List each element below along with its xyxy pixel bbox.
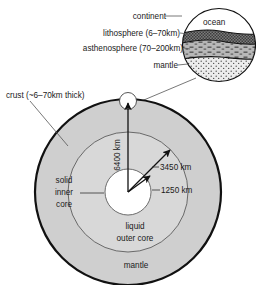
inner-core-line2: inner <box>55 188 73 197</box>
label-asthenosphere: asthenosphere (70–200km) <box>83 44 183 53</box>
outer-core-line1: liquid <box>125 222 145 231</box>
label-crust: crust (~6–70km thick) <box>6 91 85 100</box>
diagram-canvas: ocean continent lithosphere (6–70km) ast… <box>0 0 256 285</box>
inset-label-ocean: ocean <box>203 18 226 27</box>
label-lithosphere: lithosphere (6–70km) <box>103 29 180 38</box>
label-outer-core-radius: 3450 km <box>160 163 192 172</box>
label-earth-radius: 6400 km <box>113 139 122 171</box>
label-inner-core-radius: 1250 km <box>161 186 193 195</box>
label-continent: continent <box>133 12 167 21</box>
label-mantle: mantle <box>124 261 149 270</box>
label-inset-mantle: mantle <box>153 61 178 70</box>
inner-core-line1: solid <box>56 176 73 185</box>
inner-core-line3: core <box>56 200 72 209</box>
label-solid-inner-core: solid inner core <box>55 176 73 209</box>
outer-core-line2: outer core <box>117 234 154 243</box>
